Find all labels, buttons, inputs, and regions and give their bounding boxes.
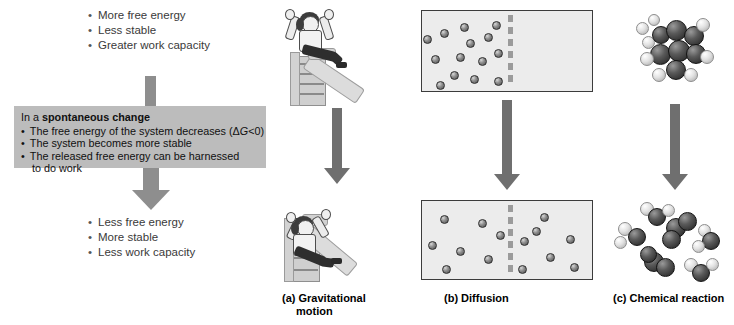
- box-header-bold: spontaneous change: [42, 111, 150, 123]
- deltag-suffix: <0): [248, 125, 264, 137]
- barrier-dashed-bottom: [508, 205, 513, 275]
- particle: [442, 265, 451, 274]
- particle: [460, 23, 469, 32]
- deltag-symbol: G: [240, 125, 248, 137]
- bullet-item: Less work capacity: [88, 245, 195, 260]
- box-header: In a spontaneous change: [21, 111, 260, 124]
- bullet-item: Less free energy: [88, 215, 195, 230]
- caption-chemical: (c) Chemical reaction: [613, 292, 724, 305]
- particle: [440, 29, 449, 38]
- particle: [494, 49, 503, 58]
- particle: [428, 241, 437, 250]
- box-bullet-harnessed: The released free energy can be harnesse…: [21, 150, 260, 163]
- particle: [532, 227, 541, 236]
- particle: [450, 71, 459, 80]
- bullet-item: Greater work capacity: [88, 38, 210, 53]
- figure-canvas: More free energy Less stable Greater wor…: [0, 0, 734, 325]
- barrier-dashed-top: [508, 15, 513, 87]
- arrow-head: [662, 174, 688, 190]
- particle: [492, 21, 501, 30]
- particle: [484, 255, 493, 264]
- slide-scene-top: [278, 4, 390, 104]
- bullet-item: Less stable: [88, 23, 210, 38]
- arrow-shaft: [332, 108, 342, 170]
- slide-scene-bottom: [276, 196, 388, 288]
- atom-hydrogen: [700, 50, 714, 64]
- reactant-molecule-cluster: [636, 12, 714, 88]
- atom-hydrogen: [662, 204, 675, 217]
- particle: [478, 57, 487, 66]
- atom-carbon: [666, 60, 686, 80]
- caption-line-1: (a) Gravitational: [282, 292, 366, 304]
- arrow-head: [324, 168, 350, 184]
- particle: [520, 237, 529, 246]
- deltag-prefix: The free energy of the system decreases …: [30, 125, 240, 137]
- particle: [570, 263, 579, 272]
- slide-rail-icon: [290, 52, 300, 106]
- particle: [436, 81, 445, 90]
- atom-carbon: [640, 246, 657, 263]
- particle: [496, 231, 505, 240]
- particle: [423, 35, 432, 44]
- gravitational-process-arrow: [324, 108, 350, 186]
- atom-carbon: [628, 228, 646, 246]
- atom-carbon: [656, 258, 675, 277]
- atom-hydrogen: [684, 68, 698, 82]
- atom-hydrogen: [614, 236, 627, 249]
- particle: [456, 247, 465, 256]
- particle: [566, 235, 575, 244]
- arrow-shaft: [670, 104, 680, 176]
- particle: [440, 215, 449, 224]
- caption-line-2: motion: [282, 305, 366, 318]
- atom-hydrogen: [696, 18, 710, 32]
- connector-bar-top: [145, 76, 156, 107]
- box-bullet-deltag: The free energy of the system decreases …: [21, 125, 260, 138]
- spontaneous-change-box: In a spontaneous change The free energy …: [14, 106, 266, 168]
- particle: [478, 219, 487, 228]
- arrow-shaft: [143, 168, 159, 192]
- diffusion-box-top: [421, 10, 593, 92]
- chemical-process-arrow: [662, 104, 688, 192]
- particle: [456, 53, 465, 62]
- top-state-bullet-list: More free energy Less stable Greater wor…: [88, 8, 210, 53]
- particle: [484, 33, 493, 42]
- atom-hydrogen: [652, 68, 666, 82]
- particle: [466, 39, 475, 48]
- spontaneous-direction-arrow: [132, 168, 170, 210]
- arrow-head: [132, 190, 170, 210]
- atom-hydrogen: [636, 22, 649, 35]
- particle: [540, 213, 549, 222]
- caption-line-1: (b) Diffusion: [444, 292, 509, 304]
- particle: [494, 77, 503, 86]
- bottom-state-bullet-list: Less free energy More stable Less work c…: [88, 215, 195, 260]
- particle: [518, 265, 527, 274]
- diffusion-process-arrow: [494, 100, 520, 192]
- product-molecules: [604, 196, 730, 284]
- atom-hydrogen: [692, 240, 705, 253]
- bullet-item: More free energy: [88, 8, 210, 23]
- particle: [546, 253, 555, 262]
- box-bullet-stable: The system becomes more stable: [21, 137, 260, 150]
- atom-hydrogen: [706, 258, 719, 271]
- bullet-item: More stable: [88, 230, 195, 245]
- atom-carbon: [678, 212, 697, 231]
- atom-hydrogen: [648, 14, 660, 26]
- caption-gravitational: (a) Gravitational motion: [282, 292, 366, 318]
- particle: [431, 55, 440, 64]
- diffusion-box-bottom: [421, 200, 593, 280]
- caption-diffusion: (b) Diffusion: [444, 292, 509, 305]
- caption-line-1: (c) Chemical reaction: [613, 292, 724, 304]
- arrow-shaft: [502, 100, 512, 176]
- atom-hydrogen: [640, 52, 654, 66]
- particle: [470, 75, 479, 84]
- arrow-head: [494, 174, 520, 190]
- box-header-lead: In a: [21, 111, 42, 123]
- atom-carbon: [662, 230, 681, 249]
